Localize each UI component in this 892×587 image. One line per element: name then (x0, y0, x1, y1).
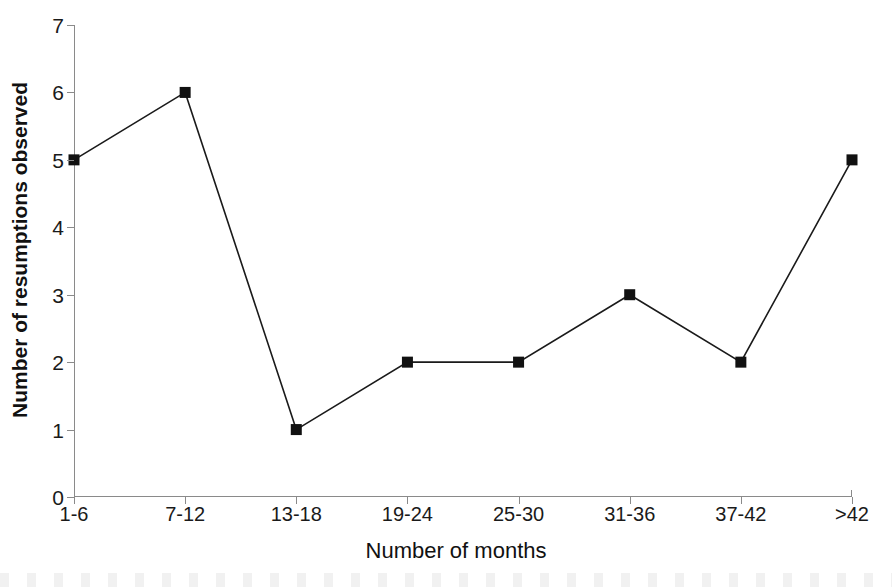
scan-artifact-strip (0, 573, 892, 587)
series-line (74, 92, 852, 429)
data-point-marker (735, 357, 746, 368)
data-point-marker (180, 87, 191, 98)
line-chart-figure: Number of resumptions observed 01234567 … (0, 0, 892, 587)
x-axis-tick-label: 31-36 (604, 503, 655, 525)
data-point-marker (847, 154, 858, 165)
x-axis-tick-label: 25-30 (493, 503, 544, 525)
data-series (74, 25, 852, 497)
y-axis-tick-labels: 01234567 (36, 0, 64, 587)
y-axis-tick-mark (67, 295, 74, 296)
y-axis-tick-label: 2 (36, 352, 64, 373)
plot-area (74, 25, 852, 497)
y-axis-title: Number of resumptions observed (0, 0, 40, 500)
x-axis-tick-label: 1-6 (60, 503, 89, 525)
x-axis-title-text: Number of months (366, 538, 547, 564)
y-axis-tick-label: 3 (36, 284, 64, 305)
data-point-marker (624, 289, 635, 300)
y-axis-tick-mark (67, 497, 74, 498)
y-axis-tick-mark (67, 25, 74, 26)
y-axis-tick-label: 7 (36, 15, 64, 36)
y-axis-tick-mark (67, 227, 74, 228)
y-axis-tick-label: 5 (36, 149, 64, 170)
x-axis-title: Number of months (0, 538, 892, 564)
x-axis-tick-label: 19-24 (382, 503, 433, 525)
x-axis-tick-labels: 1-67-1213-1819-2425-3031-3637-42>42 (74, 503, 852, 531)
data-point-marker (291, 424, 302, 435)
y-axis-tick-mark (67, 92, 74, 93)
y-axis-tick-mark (67, 160, 74, 161)
y-axis-title-text: Number of resumptions observed (8, 82, 32, 418)
y-axis-tick-label: 4 (36, 217, 64, 238)
x-axis-tick-label: 7-12 (165, 503, 205, 525)
y-axis-tick-mark (67, 430, 74, 431)
x-axis-tick-label: >42 (835, 503, 869, 525)
data-point-marker (402, 357, 413, 368)
y-axis-tick-label: 1 (36, 419, 64, 440)
x-axis-tick-label: 37-42 (715, 503, 766, 525)
y-axis-tick-mark (67, 362, 74, 363)
y-axis-tick-label: 6 (36, 82, 64, 103)
x-axis-tick-label: 13-18 (271, 503, 322, 525)
data-point-marker (513, 357, 524, 368)
